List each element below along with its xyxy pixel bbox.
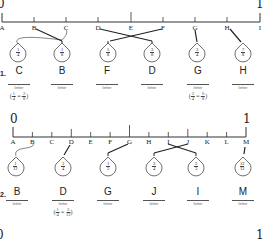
tag-fraction: 78	[241, 48, 245, 57]
letter-caption: letter	[183, 201, 213, 206]
tags-row-2	[0, 155, 265, 179]
letter-caption: letter	[93, 201, 123, 206]
equivalence-note: (14 = 312)	[54, 208, 73, 217]
answer-blank[interactable]: G	[183, 65, 213, 76]
tag-fraction: 1212	[240, 162, 245, 171]
tick-label-M: M	[243, 138, 249, 146]
tag-fraction: 12	[106, 162, 110, 171]
tag-fraction: 14	[16, 48, 20, 57]
letter-caption: letter	[137, 85, 167, 90]
letter-caption: letter	[47, 85, 77, 90]
tag-fraction: 23	[194, 162, 198, 171]
tick-label-C: C	[64, 24, 69, 32]
end-label: 1	[256, 228, 264, 240]
tick-label-C: C	[49, 138, 54, 146]
answer-blank[interactable]: G	[93, 186, 123, 197]
tick-label-A: A	[0, 24, 5, 32]
tick-label-E: E	[129, 24, 133, 32]
tick-label-J: J	[186, 138, 189, 146]
answer-blank[interactable]: M	[228, 186, 258, 197]
tag-fraction: 112	[13, 162, 18, 171]
tick-label-F: F	[108, 138, 112, 146]
tag-fraction: 58	[106, 48, 110, 57]
tick-label-A: A	[10, 138, 15, 146]
number-line-2	[0, 110, 265, 160]
answer-blank[interactable]: F	[92, 65, 122, 76]
tag-fraction: 38	[150, 48, 154, 57]
tick-label-E: E	[89, 138, 93, 146]
tick-label-D: D	[95, 24, 100, 32]
answer-blank[interactable]: I	[183, 186, 213, 197]
answer-blank[interactable]: B	[47, 65, 77, 76]
tag-fraction: 34	[152, 162, 156, 171]
tick-label-L: L	[224, 138, 228, 146]
tick-label-H: H	[146, 138, 151, 146]
answer-blank[interactable]: B	[2, 186, 32, 197]
equivalence-note: (34 = 68)	[189, 92, 207, 101]
letter-caption: letter	[228, 201, 258, 206]
answer-blank[interactable]: D	[137, 65, 167, 76]
answer-blank[interactable]: D	[48, 186, 78, 197]
tick-label-K: K	[205, 138, 210, 146]
tick-label-G: G	[127, 138, 132, 146]
letter-caption: letter	[92, 85, 122, 90]
letter-caption: letter	[183, 85, 213, 90]
letter-caption: letter	[4, 85, 34, 90]
answer-blank[interactable]: C	[4, 65, 34, 76]
tick-label-D: D	[69, 138, 74, 146]
tick-label-B: B	[32, 24, 37, 32]
tags-row-1	[0, 40, 265, 64]
tag-fraction: 34	[195, 48, 199, 57]
letter-caption: letter	[139, 201, 169, 206]
tick-label-G: G	[192, 24, 197, 32]
tag-fraction: 14	[61, 162, 65, 171]
tag-fraction: 18	[60, 48, 64, 57]
tick-label-H: H	[224, 24, 229, 32]
tick-label-F: F	[161, 24, 165, 32]
equivalence-note: (14 = 28)	[10, 92, 28, 101]
answer-blank[interactable]: H	[228, 65, 258, 76]
tick-label-I: I	[167, 138, 169, 146]
letter-caption: letter	[2, 201, 32, 206]
letter-caption: letter	[48, 201, 78, 206]
tick-label-B: B	[30, 138, 35, 146]
letter-caption: letter	[228, 85, 258, 90]
tick-label-I: I	[259, 24, 261, 32]
start-label: 0	[0, 228, 4, 240]
answer-blank[interactable]: J	[139, 186, 169, 197]
